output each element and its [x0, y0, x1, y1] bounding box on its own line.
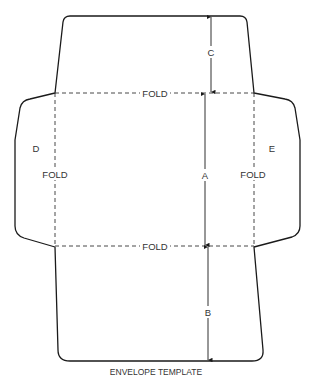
fold-label-right: FOLD: [240, 169, 265, 180]
envelope-template-diagram: FOLD FOLD FOLD FOLD D E C A B ENVELOPE T…: [0, 0, 317, 381]
fold-label-bottom: FOLD: [142, 241, 167, 252]
flap-label-e: E: [269, 143, 275, 154]
dimension-label-b: B: [205, 307, 211, 318]
fold-label-left: FOLD: [42, 169, 67, 180]
fold-label-top: FOLD: [142, 88, 167, 99]
diagram-title: ENVELOPE TEMPLATE: [110, 367, 203, 377]
flap-label-d: D: [33, 143, 40, 154]
envelope-outline: [15, 16, 300, 361]
dimension-label-c: C: [208, 47, 215, 58]
dimension-label-a: A: [202, 170, 209, 181]
